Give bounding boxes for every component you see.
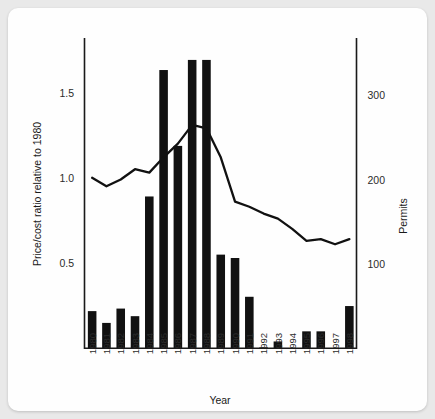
bar-1988	[202, 60, 211, 348]
y-axis-left-tick-label: 1.0	[59, 172, 74, 184]
x-axis-tick-label-1993: 1993	[273, 333, 284, 354]
x-axis-tick-label-1983: 1983	[130, 333, 141, 354]
line-series-group	[92, 125, 349, 244]
x-axis-tick-label-1980: 1980	[87, 333, 98, 354]
bar-1986	[174, 146, 183, 348]
x-axis-tick-label-1998: 1998	[344, 333, 355, 354]
y-axis-right-ticks: 100200300	[368, 89, 386, 270]
x-axis-tick-label-1987: 1987	[187, 333, 198, 354]
bar-1987	[188, 60, 197, 348]
x-axis-tick-label-1990: 1990	[230, 333, 241, 354]
x-axis-tick-label-1996: 1996	[315, 333, 326, 354]
x-axis-tick-label-1986: 1986	[172, 333, 183, 354]
y-axis-left-title: Price/cost ratio relative to 1980	[31, 122, 43, 266]
chart-svg: 0.51.01.5 100200300 19801981198219831984…	[8, 8, 427, 411]
chart-plot-area: 0.51.01.5 100200300 19801981198219831984…	[8, 8, 427, 411]
x-axis-tick-label-1982: 1982	[115, 333, 126, 354]
bar-1984	[145, 196, 154, 348]
y-axis-left-ticks: 0.51.01.5	[59, 87, 74, 270]
y-axis-right-title: Permits	[397, 198, 409, 234]
bar-1985	[159, 70, 168, 348]
x-axis-tick-label-1988: 1988	[201, 333, 212, 354]
x-axis-tick-label-1992: 1992	[258, 333, 269, 354]
x-axis-tick-label-1995: 1995	[301, 333, 312, 354]
bar-series-group	[88, 60, 354, 348]
x-axis-tick-label-1981: 1981	[101, 333, 112, 354]
x-axis-tick-label-1985: 1985	[158, 333, 169, 354]
figure-card: 0.51.01.5 100200300 19801981198219831984…	[8, 8, 427, 411]
price-cost-ratio-line	[92, 125, 349, 244]
x-axis-tick-label-1984: 1984	[144, 332, 155, 354]
y-axis-left-tick-label: 0.5	[59, 257, 74, 269]
y-axis-left-tick-label: 1.5	[59, 87, 74, 99]
x-axis-tick-label-1991: 1991	[244, 333, 255, 354]
x-axis-tick-label-1997: 1997	[330, 333, 341, 354]
x-axis-tick-label-1989: 1989	[215, 333, 226, 354]
x-axis-tick-label-1994: 1994	[287, 332, 298, 354]
y-axis-right-tick-label: 200	[368, 174, 386, 186]
x-axis-ticks: 1980198119821983198419851986198719881989…	[87, 332, 355, 354]
x-axis-title: Year	[209, 394, 231, 406]
y-axis-right-tick-label: 100	[368, 258, 386, 270]
y-axis-right-tick-label: 300	[368, 89, 386, 101]
